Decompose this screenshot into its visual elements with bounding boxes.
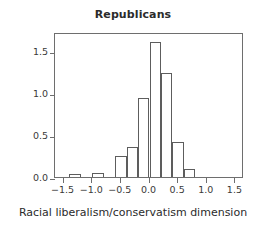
histogram-bar bbox=[184, 169, 195, 177]
plot-area bbox=[54, 33, 243, 178]
y-ticklabel: 0.5 bbox=[14, 130, 48, 141]
histogram-bar bbox=[92, 173, 103, 177]
histogram-bar bbox=[69, 174, 80, 177]
x-tick bbox=[149, 178, 150, 183]
x-tick bbox=[177, 178, 178, 183]
y-ticklabel: 1.5 bbox=[14, 46, 48, 57]
x-tick bbox=[91, 178, 92, 183]
x-tick bbox=[206, 178, 207, 183]
y-ticklabel: 0.0 bbox=[14, 172, 48, 183]
x-tick bbox=[120, 178, 121, 183]
histogram-bar bbox=[138, 98, 149, 177]
x-axis: −1.5−1.0−0.50.00.51.01.5 bbox=[54, 178, 243, 179]
x-ticklabel: 1.5 bbox=[214, 184, 254, 195]
histogram-figure: Republicans Density 0.00.51.01.5 −1.5−1.… bbox=[0, 0, 266, 231]
x-axis-label: Racial liberalism/conservatism dimension bbox=[0, 206, 266, 219]
y-tick bbox=[50, 95, 55, 96]
histogram-bar bbox=[150, 42, 161, 177]
chart-title: Republicans bbox=[0, 8, 266, 21]
histogram-bars bbox=[55, 34, 242, 177]
y-tick bbox=[50, 53, 55, 54]
y-tick bbox=[50, 179, 55, 180]
histogram-bar bbox=[115, 156, 126, 177]
y-tick bbox=[50, 137, 55, 138]
y-ticklabel: 1.0 bbox=[14, 88, 48, 99]
x-tick bbox=[63, 178, 64, 183]
histogram-bar bbox=[161, 73, 172, 177]
histogram-bar bbox=[127, 147, 138, 177]
x-tick bbox=[234, 178, 235, 183]
histogram-bar bbox=[172, 142, 183, 177]
